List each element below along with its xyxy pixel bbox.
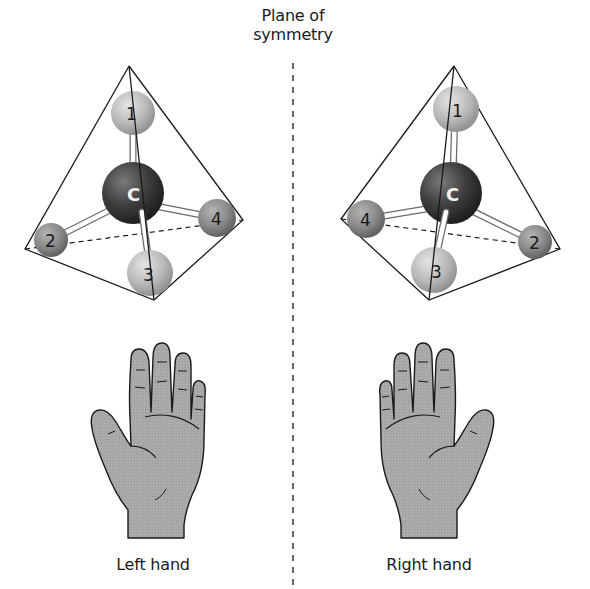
- right-tetrahedral-molecule: 4 2 1 C 3: [341, 66, 560, 300]
- atom-4-label: 4: [211, 209, 222, 229]
- carbon-label: C: [127, 184, 140, 205]
- left-hand-caption: Left hand: [93, 555, 213, 574]
- atom-2-label: 2: [45, 231, 56, 251]
- chirality-diagram: 4 2 1 C 3 4 2 1 C: [0, 0, 590, 589]
- right-hand-illustration: [380, 343, 494, 538]
- right-hand-caption: Right hand: [369, 555, 489, 574]
- atom-1-label: 1: [452, 101, 463, 121]
- left-tetrahedral-molecule: 4 2 1 C 3: [25, 66, 243, 300]
- atom-4-label: 4: [360, 210, 371, 230]
- atom-2-label: 2: [529, 233, 540, 253]
- left-hand-illustration: [91, 343, 205, 538]
- carbon-label: C: [446, 184, 459, 205]
